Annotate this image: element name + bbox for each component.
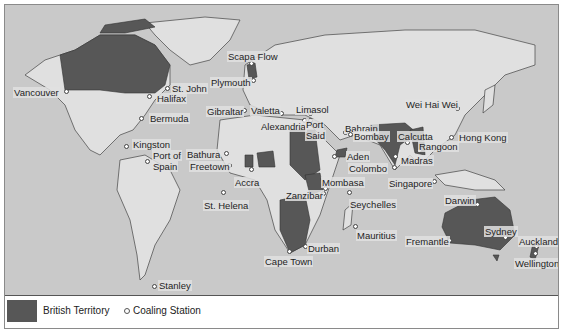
station-label: Said <box>305 130 326 141</box>
coaling-station-marker <box>287 249 292 254</box>
coaling-station-marker <box>533 251 538 256</box>
coaling-station-marker <box>221 190 226 195</box>
station-label: Scapa Flow <box>227 51 279 62</box>
station-label: Rangoon <box>418 141 459 152</box>
station-label: Kingston <box>132 139 171 150</box>
coaling-station-marker <box>251 78 256 83</box>
station-label: Auckland <box>518 236 558 247</box>
station-label: Halifax <box>156 93 187 104</box>
coaling-station-marker <box>152 284 157 289</box>
station-label: Port <box>305 119 324 130</box>
station-label: Wei Hai Wei <box>405 99 459 110</box>
station-label: Wellington <box>514 258 558 269</box>
station-label: Madras <box>400 155 434 166</box>
station-label: Spain <box>152 161 178 172</box>
station-label: Accra <box>234 177 260 188</box>
station-label: Alexandria <box>260 121 307 132</box>
coaling-station-marker <box>165 86 170 91</box>
british-territory-label: British Territory <box>43 305 110 316</box>
station-label: Cape Town <box>264 256 313 267</box>
station-label: Darwin <box>444 195 476 206</box>
coaling-station-marker <box>249 167 254 172</box>
station-label: Stanley <box>158 280 192 291</box>
british-territory-swatch <box>7 300 37 322</box>
station-label: Plymouth <box>210 77 252 88</box>
coaling-station-marker <box>347 190 352 195</box>
station-label: Mombasa <box>321 177 365 188</box>
station-label: Bombay <box>353 131 390 142</box>
coaling-station-icon <box>124 308 130 314</box>
station-label: Sydney <box>484 226 518 237</box>
station-label: Colombo <box>348 163 388 174</box>
coaling-station-marker <box>139 116 144 121</box>
station-label: Valetta <box>250 105 281 116</box>
station-label: Bathura <box>186 149 221 160</box>
coaling-station-marker <box>145 159 150 164</box>
coaling-station-marker <box>224 151 229 156</box>
coaling-station-marker <box>392 165 397 170</box>
coaling-station-marker <box>475 202 480 207</box>
station-label: Fremantle <box>405 236 450 247</box>
coaling-station-label: Coaling Station <box>133 305 201 316</box>
station-label: Port of <box>152 150 182 161</box>
station-label: Vancouver <box>13 87 60 98</box>
coaling-station-marker <box>332 154 337 159</box>
station-label: Zanzibar <box>285 190 324 201</box>
station-label: Bermuda <box>149 113 190 124</box>
coaling-station-marker <box>353 224 358 229</box>
landmass-shapes <box>5 5 558 295</box>
legend: British Territory Coaling Station <box>5 296 558 327</box>
station-label: St. Helena <box>203 200 249 211</box>
coaling-station-marker <box>147 94 152 99</box>
station-label: Freetown <box>189 161 231 172</box>
coaling-station-marker <box>124 144 129 149</box>
coaling-station-marker <box>393 154 398 159</box>
coaling-station-marker <box>449 135 454 140</box>
station-label: Aden <box>346 151 370 162</box>
station-label: Mauritius <box>356 230 397 241</box>
station-label: Singapore <box>388 178 433 189</box>
world-map: VancouverSt. JohnHalifaxBermudaKingstonP… <box>5 5 558 296</box>
coaling-station-marker <box>64 89 69 94</box>
station-label: Durban <box>307 243 340 254</box>
station-label: Hong Kong <box>458 132 508 143</box>
station-label: Limasol <box>295 104 330 115</box>
station-label: Seychelles <box>349 199 397 210</box>
station-label: Gibraltar <box>206 106 244 117</box>
